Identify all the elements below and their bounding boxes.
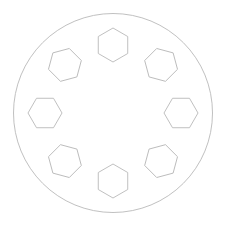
drawing-canvas (0, 0, 225, 228)
canvas-background (0, 0, 225, 228)
technical-drawing (0, 0, 225, 228)
